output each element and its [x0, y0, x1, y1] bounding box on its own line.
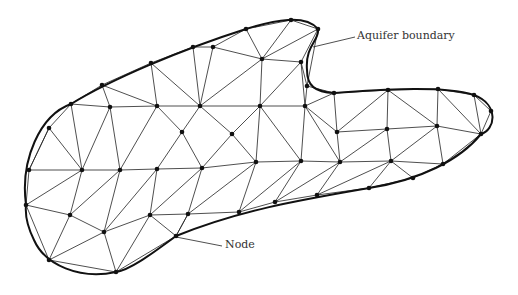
mesh-edge [200, 106, 232, 134]
mesh-edge [305, 93, 334, 106]
mesh-edge [391, 161, 443, 164]
mesh-node [260, 57, 265, 62]
mesh-edge [70, 170, 120, 215]
aquifer-mesh-diagram [0, 0, 518, 295]
mesh-node [198, 104, 203, 109]
mesh-edge [120, 106, 157, 170]
mesh-node [305, 84, 310, 89]
mesh-node [338, 160, 343, 165]
mesh-edge [387, 126, 437, 129]
mesh-edge [262, 59, 301, 62]
mesh-node [108, 105, 113, 110]
aquifer-boundary-callout [313, 37, 355, 47]
mesh-edge [26, 205, 49, 260]
mesh-edge [70, 215, 104, 232]
mesh-edge [437, 126, 443, 164]
mesh-edge [340, 161, 391, 162]
mesh-edge [262, 29, 318, 59]
mesh-edge [200, 59, 262, 106]
mesh-edge [188, 212, 239, 214]
mesh-node [180, 130, 185, 135]
mesh-node [273, 200, 278, 205]
mesh-node [102, 230, 107, 235]
mesh-edge [391, 161, 413, 178]
mesh-edge [71, 104, 82, 170]
mesh-node [155, 104, 160, 109]
mesh-edge [202, 162, 256, 168]
mesh-edge [157, 106, 182, 132]
mesh-node [100, 83, 105, 88]
mesh-edge [193, 47, 200, 106]
mesh-edge [305, 86, 307, 106]
mesh-edge [340, 129, 387, 162]
mesh-node [299, 60, 304, 65]
mesh-node [149, 61, 154, 66]
mesh-node [479, 132, 484, 137]
mesh-node [174, 234, 179, 239]
mesh-node [230, 132, 235, 137]
mesh-edge [26, 205, 70, 215]
callout-lines [176, 37, 355, 246]
mesh-edge [213, 47, 262, 59]
mesh-node [191, 45, 196, 50]
mesh-edge [260, 59, 262, 106]
mesh-node [472, 93, 477, 98]
mesh-node [237, 210, 242, 215]
mesh-node [386, 88, 391, 93]
mesh-node [200, 166, 205, 171]
mesh-edge [102, 85, 157, 106]
mesh-edge [301, 106, 305, 161]
mesh-node [436, 87, 441, 92]
mesh-node [316, 27, 321, 32]
mesh-node [69, 102, 74, 107]
mesh-edge [116, 215, 150, 272]
mesh-node [489, 109, 494, 114]
mesh-edges [26, 20, 491, 272]
mesh-edge [49, 128, 82, 170]
mesh-node [289, 18, 294, 23]
mesh-edge [110, 107, 120, 170]
mesh-node [299, 159, 304, 164]
mesh-edge [150, 168, 202, 215]
mesh-edge [82, 107, 110, 170]
mesh-edge [104, 232, 116, 272]
mesh-edge [246, 29, 262, 59]
mesh-edge [232, 106, 260, 134]
mesh-edge [388, 90, 437, 126]
mesh-edge [387, 129, 391, 161]
mesh-node [186, 212, 191, 217]
mesh-edge [443, 134, 481, 164]
mesh-node [27, 168, 32, 173]
mesh-edge [150, 214, 188, 215]
mesh-edge [334, 93, 337, 132]
mesh-edge [337, 90, 388, 132]
mesh-edge [120, 169, 157, 170]
mesh-edge [49, 232, 104, 260]
mesh-node [148, 213, 153, 218]
mesh-edge [305, 106, 337, 132]
mesh-edge [260, 106, 301, 161]
mesh-node [315, 193, 320, 198]
mesh-node [47, 258, 52, 263]
mesh-node [303, 104, 308, 109]
mesh-node [332, 91, 337, 96]
mesh-node [335, 130, 340, 135]
mesh-node [258, 104, 263, 109]
mesh-edge [232, 134, 256, 162]
mesh-node [24, 203, 29, 208]
mesh-node [411, 176, 416, 181]
mesh-edge [151, 63, 200, 106]
mesh-edge [49, 215, 70, 260]
mesh-edge [260, 62, 301, 106]
mesh-edge [71, 104, 110, 107]
mesh-edge [256, 161, 301, 162]
mesh-edge [305, 106, 340, 162]
node-callout [176, 237, 222, 246]
mesh-nodes [24, 18, 494, 275]
mesh-edge [182, 106, 200, 132]
mesh-edge [157, 132, 182, 169]
mesh-node [80, 168, 85, 173]
mesh-node [155, 167, 160, 172]
mesh-edge [387, 90, 388, 129]
mesh-edge [102, 85, 110, 107]
